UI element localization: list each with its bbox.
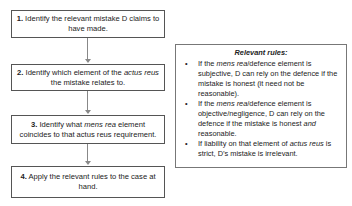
rules-title: Relevant rules: <box>182 48 340 58</box>
rule-item: •If liability on that element of actus r… <box>182 139 340 159</box>
step-2-box: 2. Identify which element of the actus r… <box>11 64 165 91</box>
bullet-icon: • <box>185 99 188 109</box>
connector-line <box>87 91 88 111</box>
connector-line <box>87 144 88 162</box>
connector-line <box>87 38 88 60</box>
step-2-text: 2. Identify which element of the actus r… <box>16 68 160 88</box>
arrow-down-icon <box>85 110 91 114</box>
bullet-icon: • <box>185 59 188 69</box>
step-3-box: 3. Identify what mens rea element coinci… <box>11 115 165 144</box>
rule-item: •If the mens rea/defence element is obje… <box>182 99 340 139</box>
relevant-rules-box: Relevant rules: •If the mens rea/defence… <box>175 44 347 168</box>
rule-item: •If the mens rea/defence element is subj… <box>182 59 340 99</box>
arrow-down-icon <box>85 59 91 63</box>
arrow-down-icon <box>85 161 91 165</box>
bullet-icon: • <box>185 139 188 149</box>
step-3-text: 3. Identify what mens rea element coinci… <box>16 120 160 140</box>
step-4-text: 4. Apply the relevant rules to the case … <box>16 172 160 192</box>
rules-list: •If the mens rea/defence element is subj… <box>182 59 340 159</box>
step-1-text: 1. Identify the relevant mistake D claim… <box>16 14 160 34</box>
step-4-box: 4. Apply the relevant rules to the case … <box>11 166 165 198</box>
step-1-box: 1. Identify the relevant mistake D claim… <box>11 10 165 38</box>
